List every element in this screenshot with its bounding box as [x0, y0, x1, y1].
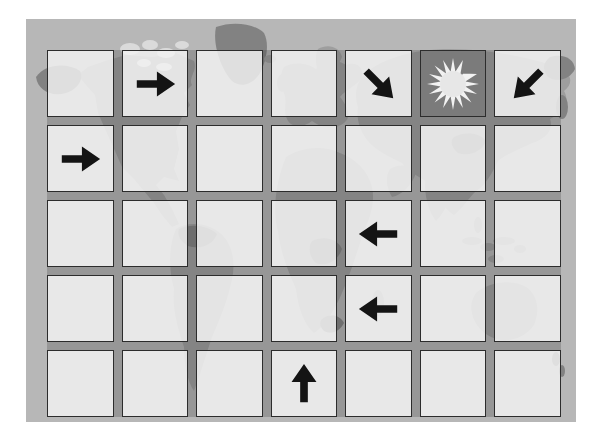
grid-cell[interactable] [122, 275, 189, 342]
grid-cell[interactable] [420, 350, 487, 417]
grid-cell[interactable] [494, 200, 561, 267]
grid-cell[interactable] [47, 125, 114, 192]
grid-cell[interactable] [345, 275, 412, 342]
sun-cell[interactable] [420, 50, 487, 117]
grid-cell[interactable] [47, 275, 114, 342]
grid-cell[interactable] [196, 50, 263, 117]
puzzle-screen [0, 0, 599, 447]
puzzle-grid [47, 50, 561, 417]
world-map [26, 19, 576, 422]
sun-icon [425, 56, 481, 112]
grid-cell[interactable] [420, 125, 487, 192]
grid-cell[interactable] [122, 125, 189, 192]
grid-cell[interactable] [47, 350, 114, 417]
grid-cell[interactable] [271, 50, 338, 117]
grid-cell[interactable] [122, 50, 189, 117]
grid-cell[interactable] [345, 200, 412, 267]
arrow-left-icon [356, 211, 402, 257]
grid-cell[interactable] [494, 50, 561, 117]
arrow-up-icon [281, 361, 327, 407]
grid-cell[interactable] [271, 125, 338, 192]
grid-cell[interactable] [420, 200, 487, 267]
grid-cell[interactable] [345, 125, 412, 192]
grid-cell[interactable] [271, 350, 338, 417]
grid-cell[interactable] [494, 275, 561, 342]
grid-cell[interactable] [122, 350, 189, 417]
arrow-down-left-icon [495, 51, 560, 116]
grid-cell[interactable] [494, 350, 561, 417]
grid-cell[interactable] [494, 125, 561, 192]
grid-cell[interactable] [196, 350, 263, 417]
arrow-left-icon [356, 286, 402, 332]
grid-cell[interactable] [271, 275, 338, 342]
grid-cell[interactable] [47, 200, 114, 267]
grid-cell[interactable] [196, 200, 263, 267]
arrow-right-icon [57, 136, 103, 182]
grid-cell[interactable] [420, 275, 487, 342]
grid-cell[interactable] [47, 50, 114, 117]
grid-cell[interactable] [345, 350, 412, 417]
grid-cell[interactable] [271, 200, 338, 267]
grid-cell[interactable] [196, 275, 263, 342]
arrow-right-icon [132, 61, 178, 107]
grid-cell[interactable] [345, 50, 412, 117]
arrow-down-right-icon [346, 51, 411, 116]
grid-cell[interactable] [196, 125, 263, 192]
grid-cell[interactable] [122, 200, 189, 267]
